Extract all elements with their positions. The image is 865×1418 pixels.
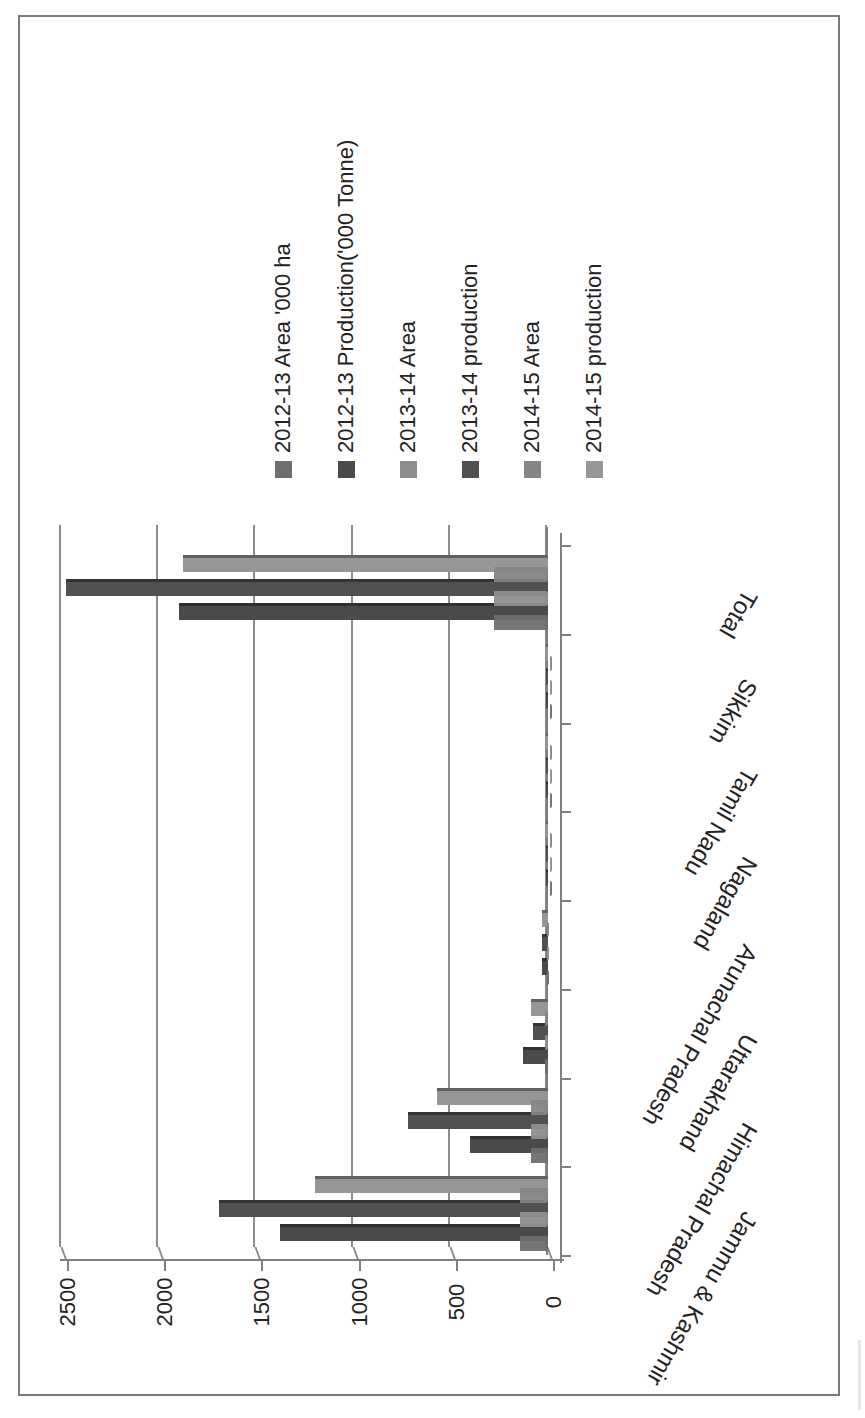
bar-2013-14-area: [550, 857, 552, 872]
bar-2014-15-area: [550, 833, 552, 848]
bar-2012-13-production-000-tonne-: [179, 603, 548, 620]
category-axis-tick: [561, 723, 571, 725]
bar-2014-15-production: [546, 733, 548, 750]
bar-2013-14-area: [531, 1124, 548, 1139]
bar-2012-13-area-000-ha: [550, 704, 552, 719]
value-axis-tick-label: 0: [541, 1262, 567, 1342]
bar-2014-15-area: [494, 567, 548, 582]
legend-item: 2012-13 Area '000 ha: [270, 243, 296, 478]
category-label: Total: [713, 585, 763, 643]
legend-swatch: [400, 461, 417, 478]
legend-swatch: [275, 461, 292, 478]
legend-swatch: [338, 461, 355, 478]
legend-item: 2013-14 Area: [395, 321, 421, 478]
bar-2013-14-area: [545, 1035, 548, 1050]
legend-swatch: [524, 461, 541, 478]
legend-label: 2012-13 Production('000 Tonne): [333, 140, 359, 453]
gridline: [156, 525, 158, 1247]
bar-2013-14-area: [520, 1212, 548, 1227]
legend-swatch: [586, 461, 603, 478]
value-axis-line: [60, 1259, 564, 1261]
bar-2012-13-production-000-tonne-: [546, 781, 548, 798]
bar-2013-14-production: [546, 845, 548, 862]
bar-2014-15-production: [315, 1176, 548, 1193]
bar-2012-13-area-000-ha: [550, 793, 552, 808]
bar-2013-14-area: [547, 946, 549, 961]
value-axis-tick-label: 1500: [249, 1262, 275, 1342]
bar-2014-15-area: [550, 656, 552, 671]
bar-2012-13-area-000-ha: [531, 1148, 548, 1163]
page-edge-mark: [858, 1340, 861, 1410]
bar-2012-13-area-000-ha: [520, 1236, 548, 1251]
bar-2013-14-area: [550, 769, 552, 784]
value-axis-tick-label: 500: [444, 1262, 470, 1342]
bar-2014-15-area: [531, 1100, 548, 1115]
legend-swatch: [462, 461, 479, 478]
bar-2012-13-production-000-tonne-: [523, 1047, 548, 1064]
legend-item: 2014-15 production: [581, 263, 607, 478]
legend-label: 2014-15 production: [581, 263, 607, 453]
category-axis-tick: [561, 545, 571, 547]
bar-2012-13-production-000-tonne-: [280, 1224, 548, 1241]
bar-2012-13-area-000-ha: [547, 970, 549, 985]
category-axis-tick: [561, 1255, 571, 1257]
value-axis-tick-label: 1000: [347, 1262, 373, 1342]
category-axis-tick: [561, 634, 571, 636]
bar-2014-15-area: [520, 1188, 548, 1203]
gridline: [448, 525, 450, 1247]
legend-label: 2013-14 production: [457, 263, 483, 453]
bar-2012-13-area-000-ha: [550, 881, 552, 896]
gridline: [253, 525, 255, 1247]
bar-2012-13-production-000-tonne-: [546, 692, 548, 709]
bar-2013-14-production: [66, 579, 548, 596]
category-axis-line: [560, 533, 562, 1263]
bar-2012-13-area-000-ha: [494, 615, 548, 630]
bar-2014-15-area: [545, 1011, 548, 1026]
bar-2013-14-production: [546, 757, 548, 774]
category-axis-tick: [561, 811, 571, 813]
bar-2014-15-area: [550, 745, 552, 760]
bar-2014-15-production: [546, 821, 548, 838]
legend-item: 2014-15 Area: [519, 321, 545, 478]
category-axis-tick: [561, 900, 571, 902]
gridline: [59, 525, 61, 1247]
category-axis-tick: [561, 989, 571, 991]
bar-2014-15-production: [546, 644, 548, 661]
legend-label: 2013-14 Area: [395, 321, 421, 453]
bar-2013-14-production: [219, 1200, 548, 1217]
legend-label: 2014-15 Area: [519, 321, 545, 453]
bar-2013-14-area: [494, 591, 548, 606]
legend-item: 2013-14 production: [457, 263, 483, 478]
bar-2012-13-production-000-tonne-: [546, 869, 548, 886]
bar-2013-14-production: [546, 668, 548, 685]
gridline: [351, 525, 353, 1247]
legend-label: 2012-13 Area '000 ha: [270, 243, 296, 453]
bar-2013-14-production: [408, 1112, 548, 1129]
value-axis-tick-label: 2500: [55, 1262, 81, 1342]
category-axis-tick: [561, 1166, 571, 1168]
chart-legend: 2012-13 Area '000 ha 2012-13 Production(…: [258, 180, 618, 480]
bar-2014-15-area: [547, 922, 549, 937]
category-axis-tick: [561, 1078, 571, 1080]
category-label: Sikkim: [703, 674, 763, 749]
bar-2012-13-area-000-ha: [545, 1059, 548, 1074]
legend-item: 2012-13 Production('000 Tonne): [333, 140, 359, 478]
value-axis-tick-label: 2000: [152, 1262, 178, 1342]
bar-2013-14-area: [550, 680, 552, 695]
